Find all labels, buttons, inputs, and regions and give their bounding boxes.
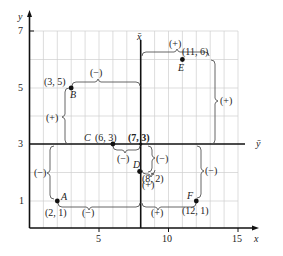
sign-A-dx: (−) xyxy=(82,207,94,219)
sign-A-dy: (−) xyxy=(34,167,46,179)
y-tick-5: 5 xyxy=(18,82,23,93)
point-C-coords: (6, 3) xyxy=(95,132,117,144)
point-E-name: E xyxy=(177,62,184,73)
point-D-coords: (8, 2) xyxy=(142,173,164,185)
sign-F-dy: (−) xyxy=(205,165,217,177)
sign-F-dx: (+) xyxy=(151,207,163,219)
x-tick-15: 15 xyxy=(232,233,242,244)
ybar-label: ȳ xyxy=(255,138,261,149)
sign-E-dx: (+) xyxy=(169,38,181,50)
sign-C-dx: (−) xyxy=(117,153,129,165)
point-F-name: F xyxy=(186,190,194,201)
y-axis-label: y xyxy=(17,11,23,22)
y-tick-3: 3 xyxy=(18,138,23,149)
deviation-braces xyxy=(47,49,218,210)
point-A-name: A xyxy=(60,191,68,202)
xbar-label: x̄ xyxy=(136,31,142,42)
point-B-name: B xyxy=(70,89,76,100)
point-F-coords: (12, 1) xyxy=(182,205,209,217)
point-F xyxy=(194,199,199,204)
deviation-diagram: y x x̄ ȳ 7 5 3 1 5 10 15 (−) (+) (+) (+)… xyxy=(0,0,283,256)
x-axis-label: x xyxy=(253,233,259,244)
mean-point-label: (7, 3) xyxy=(128,132,150,144)
point-A-coords: (2, 1) xyxy=(45,207,67,219)
point-B-coords: (3, 5) xyxy=(44,76,66,88)
point-A xyxy=(55,199,60,204)
point-E-coords: (11, 6) xyxy=(182,46,208,58)
sign-B-dy: (+) xyxy=(46,112,58,124)
y-tick-1: 1 xyxy=(19,195,24,206)
sign-E-dy: (+) xyxy=(220,95,232,107)
sign-B-dx: (−) xyxy=(90,67,102,79)
y-tick-7: 7 xyxy=(18,25,23,36)
x-tick-10: 10 xyxy=(162,233,172,244)
point-C-name: C xyxy=(84,132,91,143)
sign-D-dy: (−) xyxy=(156,153,168,165)
point-D-name: D xyxy=(132,159,141,170)
x-tick-5: 5 xyxy=(96,233,101,244)
